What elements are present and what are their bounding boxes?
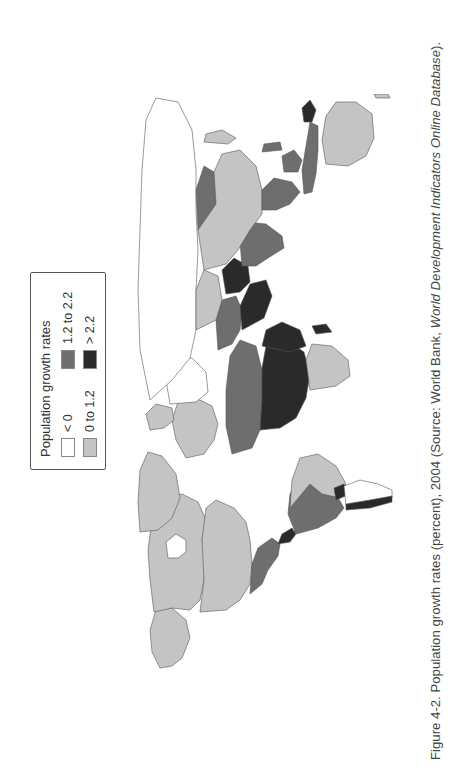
region-japan	[204, 130, 236, 144]
legend-title: Population growth rates	[38, 320, 53, 457]
region-alaska	[150, 608, 190, 668]
region-australia	[322, 102, 374, 166]
region-philippines	[262, 142, 282, 152]
region-usa	[200, 500, 252, 612]
region-southern-africa	[306, 344, 350, 390]
region-russia	[138, 98, 198, 400]
region-indonesia	[302, 122, 318, 194]
region-east-africa	[262, 322, 306, 352]
region-north-africa	[226, 340, 262, 454]
figure: Population growth rates < 0 1.2 to 2.2 0…	[0, 0, 476, 770]
legend-label: 1.2 to 2.2	[61, 292, 75, 344]
legend-item: > 2.2	[83, 316, 97, 369]
legend-swatch	[61, 438, 75, 457]
legend: Population growth rates < 0 1.2 to 2.2 0…	[30, 272, 106, 470]
world-map	[135, 94, 413, 670]
legend-item: 0 to 1.2	[83, 390, 97, 457]
region-borneo	[282, 150, 302, 172]
legend-label: > 2.2	[83, 316, 97, 344]
region-southeast-asia	[262, 178, 300, 210]
legend-item: < 0	[61, 414, 75, 457]
caption-prefix: Figure 4-2. Population growth rates (per…	[428, 329, 443, 761]
region-madagascar	[312, 324, 332, 334]
legend-item: 1.2 to 2.2	[61, 292, 75, 369]
region-papua-new-guinea	[302, 100, 316, 122]
caption-suffix: ).	[428, 42, 443, 50]
region-central-america	[278, 528, 296, 544]
region-scandinavia	[146, 404, 174, 430]
region-new-zealand	[374, 94, 390, 98]
region-mexico	[250, 538, 280, 594]
region-sahel-central-africa	[260, 340, 310, 430]
figure-caption: Figure 4-2. Population growth rates (per…	[428, 15, 443, 760]
legend-swatch	[83, 438, 97, 457]
region-western-europe	[172, 398, 218, 458]
legend-label: < 0	[61, 414, 75, 432]
legend-swatch	[61, 350, 75, 369]
legend-label: 0 to 1.2	[83, 390, 97, 432]
legend-swatch	[83, 350, 97, 369]
caption-source: World Development Indicators Online Data…	[428, 50, 443, 329]
